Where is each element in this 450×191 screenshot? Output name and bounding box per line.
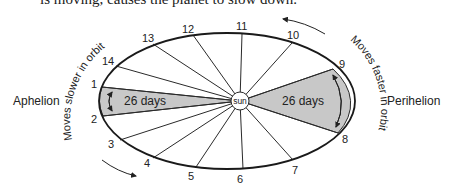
position-12: 12 — [182, 23, 194, 35]
position-8: 8 — [342, 133, 348, 145]
position-14: 14 — [102, 55, 114, 67]
position-7: 7 — [292, 164, 298, 176]
sun-label: sun — [233, 96, 247, 106]
aphelion-label: Aphelion — [13, 94, 60, 108]
position-11: 11 — [236, 20, 247, 32]
position-13: 13 — [142, 32, 154, 44]
position-2: 2 — [91, 113, 97, 125]
slower-direction-arrow — [102, 160, 136, 176]
position-6: 6 — [237, 173, 243, 185]
position-1: 1 — [91, 78, 97, 90]
position-9: 9 — [339, 58, 345, 70]
position-10: 10 — [287, 29, 299, 41]
perihelion-days-label: 26 days — [282, 94, 324, 108]
aphelion-days-label: 26 days — [124, 94, 166, 108]
aphelion-sector — [100, 87, 240, 116]
perihelion-label: Perihelion — [387, 94, 440, 108]
moves-slower-label: Moves slower in orbit — [60, 40, 106, 142]
position-4: 4 — [144, 157, 150, 169]
position-5: 5 — [188, 170, 194, 182]
orbit-diagram: sun 26 days 26 days 1 2 3 4 5 6 7 8 9 10… — [0, 0, 450, 191]
position-3: 3 — [108, 138, 114, 150]
moves-faster-label: Moves faster in orbit — [349, 33, 392, 133]
